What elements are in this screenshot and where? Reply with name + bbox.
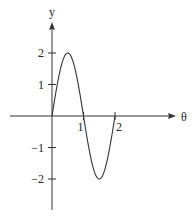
y-tick-label: −1 <box>31 141 44 155</box>
y-axis-label: y <box>49 5 55 19</box>
chart: 1221−1−2 θ y <box>0 0 193 218</box>
x-tick-label: 2 <box>116 120 122 134</box>
y-tick-label: −2 <box>31 172 44 186</box>
x-axis-label: θ <box>181 110 187 124</box>
y-tick-label: 1 <box>38 78 44 92</box>
x-tick-label: 1 <box>78 120 84 134</box>
y-tick-label: 2 <box>38 46 44 60</box>
x-axis-arrow <box>168 113 176 119</box>
y-axis-arrow <box>49 22 55 30</box>
